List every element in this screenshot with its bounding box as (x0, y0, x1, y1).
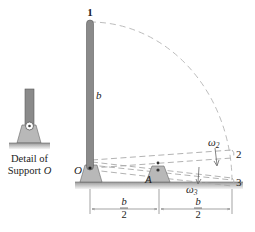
pin-A-icon (156, 168, 159, 171)
detail-bar (25, 89, 34, 127)
dim-right-fraction: b 2 (194, 196, 202, 220)
point-2-label: 2 (236, 148, 242, 160)
svg-text:b: b (121, 196, 126, 207)
support-O-label: O (74, 164, 82, 176)
bar-length-label: b (96, 89, 102, 101)
svg-text:2: 2 (121, 209, 126, 220)
swing-arc (90, 22, 232, 180)
dim-left-fraction: b 2 (120, 196, 128, 220)
svg-text:2: 2 (195, 209, 200, 220)
detail-caption-line1: Detail of (11, 153, 49, 164)
pin-O-icon (88, 166, 91, 169)
bar-position-1 (87, 20, 94, 170)
omega3-arrow (196, 167, 201, 184)
ground (75, 182, 243, 189)
detail-caption-line2: Support O (8, 165, 52, 176)
point-3-label: 3 (236, 176, 242, 188)
support-detail: Detail of Support O (8, 89, 52, 176)
svg-text:b: b (195, 196, 200, 207)
dimension-lines (90, 189, 232, 214)
omega2-label: ω2 (208, 136, 220, 150)
diagram-canvas: Detail of Support O (0, 0, 255, 232)
detail-ground (9, 143, 50, 149)
dashed-bar-2 (92, 150, 234, 168)
support-A-label: A (144, 173, 152, 185)
point-1-label: 1 (87, 6, 93, 18)
